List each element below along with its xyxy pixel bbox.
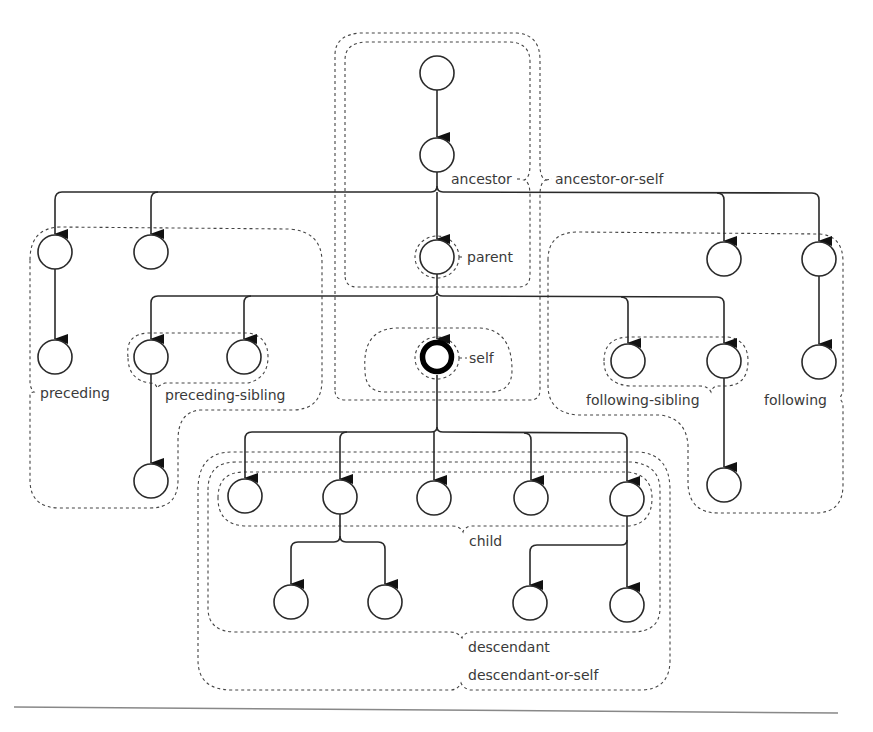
node-following [802,345,836,379]
node-child [323,480,357,514]
label-descendant: descendant [468,639,550,655]
edge [524,433,531,480]
node-preceding [134,235,168,269]
node-following [802,242,836,276]
label-descendant-or-self: descendant-or-self [468,667,599,683]
label-parent: parent [467,249,513,265]
node-self [423,343,452,372]
divider [14,707,838,713]
node-preceding-sibling [134,340,168,374]
node-preceding [38,235,72,269]
edge [717,193,724,241]
node-ancestor [420,138,454,172]
label-ancestor-or-self: ancestor-or-self [555,171,665,187]
node-following [707,468,741,502]
node-preceding [134,464,168,498]
node-child [228,479,262,513]
edge [437,427,627,481]
node-child [514,481,548,515]
label-following-sibling: following-sibling [586,392,700,408]
node-child [610,482,644,516]
edge [621,297,628,343]
label-preceding-sibling: preceding-sibling [165,387,285,403]
label-child: child [469,533,502,549]
edge [291,514,340,584]
node-following-sibling [611,344,645,378]
leader [546,179,552,180]
node-following-sibling [707,344,741,378]
xpath-axes-diagram: ancestor ancestor-or-self parent self pr… [0,0,873,732]
label-self: self [469,350,495,366]
node-following [707,242,741,276]
label-ancestor: ancestor [451,171,512,187]
label-preceding: preceding [40,385,110,401]
node-parent [420,240,454,274]
edge [437,291,724,343]
node-preceding [38,340,72,374]
node-preceding-sibling [227,340,261,374]
region-following [548,232,843,513]
node-descendant [610,588,644,622]
node-descendant [513,586,547,620]
region-preceding [30,227,322,508]
label-following: following [764,392,827,408]
node-root [420,56,454,90]
node-descendant [368,585,402,619]
edge [55,172,437,234]
edge [340,536,385,584]
node-child [417,481,451,515]
node-descendant [274,585,308,619]
edge [151,274,437,339]
